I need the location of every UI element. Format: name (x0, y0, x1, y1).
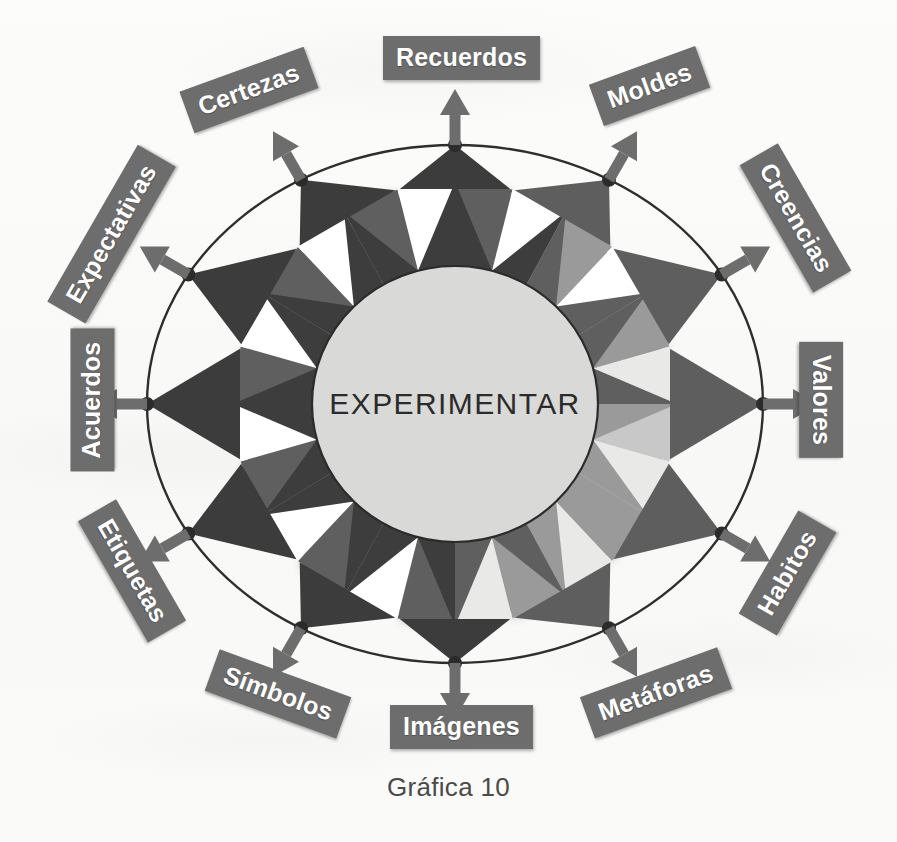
arrow-shaft (286, 154, 301, 180)
outward-spike (147, 349, 240, 459)
center-label: EXPERIMENTAR (265, 387, 645, 421)
arrow-shaft (162, 260, 188, 275)
node-label-recuerdos[interactable]: Recuerdos (383, 36, 540, 80)
outward-spike (670, 349, 763, 459)
arrow-shaft (722, 534, 748, 549)
arrow-shaft (286, 628, 301, 654)
arrow-shaft (609, 628, 624, 654)
arrow-shaft (609, 154, 624, 180)
node-label-imagenes[interactable]: Imágenes (390, 705, 533, 749)
figure-caption: Gráfica 10 (0, 772, 897, 803)
arrow-shaft (162, 534, 188, 549)
node-label-acuerdos[interactable]: Acuerdos (70, 329, 114, 472)
arrow-shaft (722, 260, 748, 275)
figure-page: Recuerdos Moldes Creencias Valores Habit… (0, 0, 897, 842)
node-label-valores[interactable]: Valores (799, 342, 843, 458)
arrow-head (440, 89, 470, 115)
